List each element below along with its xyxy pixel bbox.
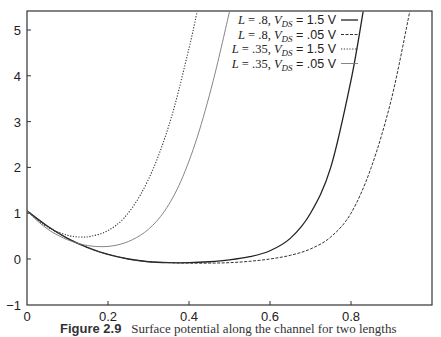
y-tick-label: 0 bbox=[14, 252, 21, 267]
figure-caption: Figure 2.9 Surface potential along the c… bbox=[60, 321, 397, 337]
series-line-4 bbox=[27, 12, 230, 247]
y-tick-label: 3 bbox=[14, 115, 21, 130]
legend: L = .8, VDS = 1.5 VL = .8, VDS = .05 VL … bbox=[231, 13, 358, 73]
figure-label: Figure 2.9 bbox=[60, 321, 121, 336]
y-tick-label: 2 bbox=[14, 160, 21, 175]
y-tick-label: 4 bbox=[14, 69, 21, 84]
y-tick-label: 5 bbox=[14, 23, 21, 38]
y-tick-label: −1 bbox=[6, 298, 21, 313]
caption-text: Surface potential along the channel for … bbox=[131, 321, 396, 336]
plot-frame bbox=[27, 11, 432, 305]
x-tick-label: 0 bbox=[23, 309, 30, 324]
legend-label: L = .35, VDS = .05 V bbox=[231, 57, 337, 73]
series-line-3 bbox=[27, 12, 197, 237]
y-tick-label: 1 bbox=[14, 206, 21, 221]
